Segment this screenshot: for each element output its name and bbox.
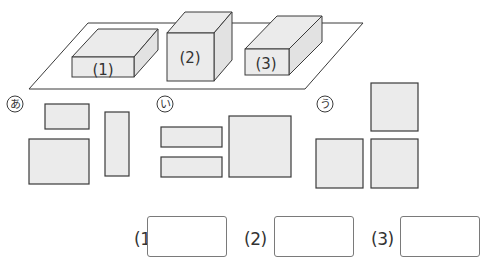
face-rect: [105, 112, 129, 176]
box-1: (1): [72, 29, 158, 79]
box-3-label: (3): [255, 55, 276, 73]
face-rect: [229, 116, 291, 177]
box-2: (2): [167, 12, 232, 81]
face-rect: [45, 104, 89, 129]
answer-2-label: (2): [244, 229, 267, 249]
face-rect: [371, 139, 418, 188]
net-group-i: い: [157, 96, 291, 177]
face-rect: [161, 127, 222, 147]
face-rect: [29, 139, 89, 184]
group-u-label: う: [320, 98, 331, 111]
face-rect: [316, 139, 363, 188]
group-i-label: い: [160, 98, 171, 111]
box-3: (3): [245, 16, 322, 75]
box-1-label: (1): [92, 61, 113, 79]
answer-3-input[interactable]: [400, 216, 480, 257]
group-a-label: あ: [10, 98, 21, 111]
face-rect: [371, 83, 418, 131]
box-2-label: (2): [179, 49, 200, 67]
net-group-a: あ: [7, 96, 129, 184]
answer-1-input[interactable]: [147, 216, 227, 257]
answer-2-input[interactable]: [274, 216, 354, 257]
net-group-u: う: [316, 83, 418, 188]
face-rect: [161, 157, 222, 177]
answer-3-label: (3): [371, 229, 394, 249]
